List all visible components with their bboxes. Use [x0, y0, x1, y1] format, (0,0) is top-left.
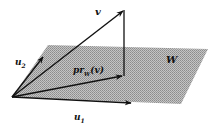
label-u1: u1: [74, 112, 85, 124]
label-u1-sub: 1: [81, 117, 85, 124]
label-u2: u2: [15, 57, 26, 69]
label-v: v: [95, 6, 101, 17]
projection-diagram: v u2 prW(v) W u1: [0, 0, 219, 131]
label-u2-sub: 2: [21, 62, 26, 69]
label-projection-arg: (v): [90, 65, 104, 75]
label-plane-w: W: [166, 54, 179, 65]
